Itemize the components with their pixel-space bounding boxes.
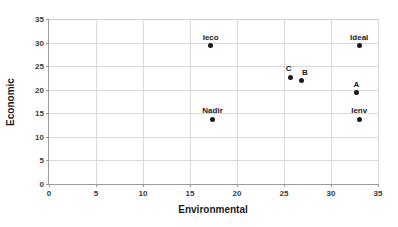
y-tick-mark	[46, 19, 49, 20]
x-tick-mark	[96, 184, 97, 187]
y-tick-mark	[46, 113, 49, 114]
x-tick-mark	[237, 184, 238, 187]
plot-area: 0510152025303505101520253035IecoIdealCBA…	[48, 19, 378, 185]
data-point	[357, 117, 362, 122]
y-tick-mark	[46, 137, 49, 138]
data-point-label: Ieco	[203, 33, 219, 42]
x-tick-mark	[190, 184, 191, 187]
x-tick-label: 10	[139, 189, 148, 198]
gridline-horizontal	[49, 19, 378, 20]
gridline-horizontal	[49, 43, 378, 44]
data-point-label: A	[353, 80, 359, 89]
y-tick-mark	[46, 160, 49, 161]
x-tick-mark	[284, 184, 285, 187]
y-axis-title-text: Economic	[4, 19, 18, 185]
y-tick-label: 0	[40, 180, 44, 189]
x-tick-label: 20	[233, 189, 242, 198]
gridline-horizontal	[49, 90, 378, 91]
data-point	[210, 117, 215, 122]
y-axis-title: Economic	[4, 19, 18, 185]
x-tick-label: 30	[327, 189, 336, 198]
gridline-vertical	[237, 19, 238, 184]
gridline-vertical	[96, 19, 97, 184]
y-tick-label: 15	[35, 109, 44, 118]
data-point-label: Nadir	[202, 106, 222, 115]
y-tick-mark	[46, 43, 49, 44]
data-point-label: Ideal	[350, 33, 368, 42]
gridline-horizontal	[49, 66, 378, 67]
data-point	[299, 78, 304, 83]
data-point-label: C	[286, 64, 292, 73]
x-tick-mark	[143, 184, 144, 187]
data-point	[354, 90, 359, 95]
y-tick-label: 20	[35, 85, 44, 94]
x-tick-mark	[378, 184, 379, 187]
y-tick-label: 5	[40, 156, 44, 165]
gridline-vertical	[190, 19, 191, 184]
gridline-vertical	[143, 19, 144, 184]
y-tick-label: 25	[35, 62, 44, 71]
y-tick-label: 35	[35, 15, 44, 24]
x-tick-label: 35	[374, 189, 383, 198]
gridline-vertical	[378, 19, 379, 184]
data-point	[208, 43, 213, 48]
scatter-chart: 0510152025303505101520253035IecoIdealCBA…	[0, 0, 398, 227]
y-tick-mark	[46, 66, 49, 67]
data-point-label: Ienv	[351, 106, 367, 115]
y-tick-label: 30	[35, 38, 44, 47]
x-axis-title: Environmental	[48, 204, 378, 215]
x-tick-mark	[49, 184, 50, 187]
gridline-vertical	[284, 19, 285, 184]
data-point	[357, 43, 362, 48]
y-tick-label: 10	[35, 132, 44, 141]
y-tick-mark	[46, 90, 49, 91]
x-tick-mark	[331, 184, 332, 187]
x-tick-label: 0	[47, 189, 51, 198]
gridline-horizontal	[49, 137, 378, 138]
gridline-vertical	[331, 19, 332, 184]
gridline-horizontal	[49, 160, 378, 161]
x-tick-label: 15	[186, 189, 195, 198]
data-point-label: B	[302, 68, 308, 77]
data-point	[288, 75, 293, 80]
x-tick-label: 5	[94, 189, 98, 198]
x-tick-label: 25	[280, 189, 289, 198]
